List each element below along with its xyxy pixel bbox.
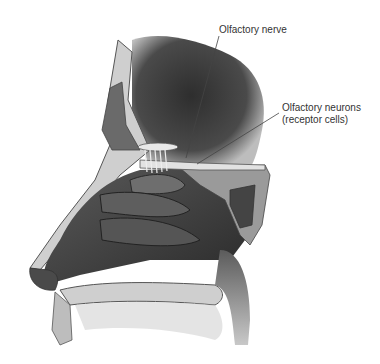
olfactory-nerve-label: Olfactory nerve [219, 24, 287, 36]
hard-palate [60, 283, 223, 305]
olfactory-neurons-label-line2: (receptor cells) [282, 114, 361, 126]
nasal-cavity-illustration [0, 0, 380, 364]
olfactory-bulb [138, 143, 178, 151]
oral-cavity [75, 302, 223, 340]
olfactory-neurons-label: Olfactory neurons (receptor cells) [282, 102, 361, 126]
olfactory-anatomy-figure: Olfactory nerve Olfactory neurons (recep… [0, 0, 380, 364]
olfactory-neurons-label-line1: Olfactory neurons [282, 102, 361, 114]
